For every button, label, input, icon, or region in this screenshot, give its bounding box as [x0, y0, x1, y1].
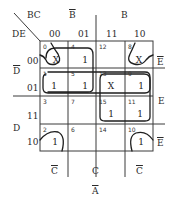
cell-value-11: 1 — [133, 110, 147, 119]
bottom-label-c: C — [92, 167, 99, 176]
cell-index-0: 0 — [43, 44, 47, 50]
row-header-10: 10 — [27, 138, 38, 147]
cell-value-2: 1 — [48, 138, 62, 147]
cell-value-13: X — [104, 82, 118, 91]
cell-value-1: 1 — [47, 82, 61, 91]
cell-index-15: 15 — [99, 99, 107, 105]
cell-index-4: 4 — [71, 44, 75, 50]
cell-index-7: 7 — [71, 99, 75, 105]
cell-value-8: X — [132, 56, 146, 65]
col-header-10: 10 — [134, 30, 145, 39]
cell-value-5: 1 — [78, 82, 92, 91]
col-header-01: 01 — [78, 30, 89, 39]
cell-index-1: 1 — [43, 71, 47, 77]
cell-index-2: 2 — [43, 127, 47, 133]
cell-index-3: 3 — [43, 99, 47, 105]
cell-index-9: 9 — [128, 71, 132, 77]
row-header-00: 00 — [27, 57, 38, 66]
cell-index-10: 10 — [128, 127, 136, 133]
left-group-d-bar: D — [13, 67, 20, 76]
col-header-11: 11 — [106, 30, 117, 39]
right-label-e-bar-bottom: E — [157, 139, 164, 148]
cell-value-10: 1 — [134, 138, 148, 147]
corner-label-de: DE — [12, 30, 26, 39]
top-group-b-bar: B — [69, 11, 76, 20]
footer-label-a-bar: A — [92, 187, 99, 196]
row-header-11: 11 — [27, 112, 38, 121]
row-header-01: 01 — [27, 84, 38, 93]
cell-index-8: 8 — [128, 44, 132, 50]
bottom-label-c-bar-left: C — [51, 167, 58, 176]
cell-index-12: 12 — [99, 44, 107, 50]
cell-index-6: 6 — [71, 127, 75, 133]
cell-index-14: 14 — [99, 127, 107, 133]
right-label-e-bar-top: E — [157, 58, 164, 67]
cell-value-0: X — [49, 56, 63, 65]
bottom-label-c-bar-right: C — [136, 167, 143, 176]
top-group-b: B — [121, 11, 128, 20]
right-label-e: E — [158, 97, 165, 106]
cell-value-15: 1 — [104, 110, 118, 119]
corner-label-bc: BC — [27, 11, 41, 20]
cell-index-5: 5 — [71, 71, 75, 77]
left-group-d: D — [13, 124, 20, 133]
cell-value-9: 1 — [134, 82, 148, 91]
cell-value-4: 1 — [78, 56, 92, 65]
cell-index-11: 11 — [128, 99, 136, 105]
col-header-00: 00 — [49, 30, 60, 39]
cell-index-13: 13 — [99, 71, 107, 77]
